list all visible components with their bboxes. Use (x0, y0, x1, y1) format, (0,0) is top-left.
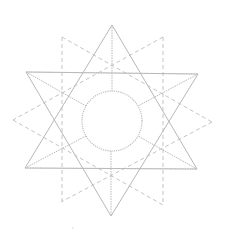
geometric-star-diagram (0, 0, 234, 238)
center-circle (82, 91, 142, 151)
diagram-canvas (0, 0, 234, 238)
dashed-star-layer (13, 37, 212, 205)
stray-dot (72, 227, 73, 228)
spoke-line (26, 72, 86, 106)
dashed-star-edge (13, 120, 163, 205)
dashed-star-edge (13, 37, 163, 120)
spokes-layer (25, 25, 198, 216)
spoke-line (138, 74, 198, 106)
spoke-line (138, 136, 197, 169)
upward-triangle (25, 25, 197, 169)
downward-triangle (26, 72, 198, 216)
